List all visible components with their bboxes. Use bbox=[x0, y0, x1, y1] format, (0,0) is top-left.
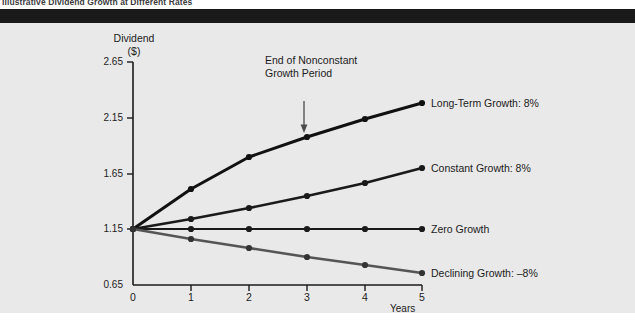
x-tick-label-0: 0 bbox=[123, 291, 143, 303]
y-tick-label-0-65: 0.65 bbox=[89, 279, 123, 290]
x-tick-label-5: 5 bbox=[412, 291, 432, 303]
series-label-constant-growth: Constant Growth: 8% bbox=[431, 162, 531, 174]
figure-container: Illustrative Dividend Growth at Differen… bbox=[0, 0, 635, 327]
annotation-line2: Growth Period bbox=[265, 67, 357, 80]
annotation-end-of-nonconstant-growth: End of Nonconstant Growth Period bbox=[265, 54, 357, 79]
series-declining-growth bbox=[130, 226, 425, 276]
y-tick-label-1-65: 1.65 bbox=[89, 168, 123, 179]
annotation-line1: End of Nonconstant bbox=[265, 54, 357, 67]
x-axis-title: Years bbox=[390, 303, 415, 314]
series-label-zero-growth: Zero Growth bbox=[431, 223, 489, 235]
y-axis-title-line1: Dividend bbox=[88, 32, 180, 45]
figure-caption: Illustrative Dividend Growth at Differen… bbox=[2, 0, 192, 7]
annotation-arrow bbox=[301, 101, 308, 133]
chart-panel: Dividend ($) 2.65 2.15 1.65 1.15 0.65 0 … bbox=[0, 23, 635, 313]
y-axis-title: Dividend ($) bbox=[88, 32, 180, 57]
figure-caption-strip: Illustrative Dividend Growth at Differen… bbox=[0, 0, 635, 9]
y-tick-label-2-65: 2.65 bbox=[89, 56, 123, 67]
series-zero-growth bbox=[130, 226, 425, 232]
header-bar bbox=[0, 9, 635, 23]
y-tick-label-1-15: 1.15 bbox=[89, 223, 123, 234]
series-label-long-term-growth: Long-Term Growth: 8% bbox=[431, 97, 539, 109]
x-tick-label-1: 1 bbox=[181, 291, 201, 303]
x-tick-label-4: 4 bbox=[355, 291, 375, 303]
y-tick-label-2-15: 2.15 bbox=[89, 112, 123, 123]
series-long-term-growth bbox=[130, 100, 425, 232]
series-constant-growth bbox=[130, 165, 425, 232]
y-axis-ticks bbox=[127, 62, 133, 229]
x-tick-label-3: 3 bbox=[297, 291, 317, 303]
x-tick-label-2: 2 bbox=[239, 291, 259, 303]
series-label-declining-growth: Declining Growth: –8% bbox=[431, 267, 538, 279]
